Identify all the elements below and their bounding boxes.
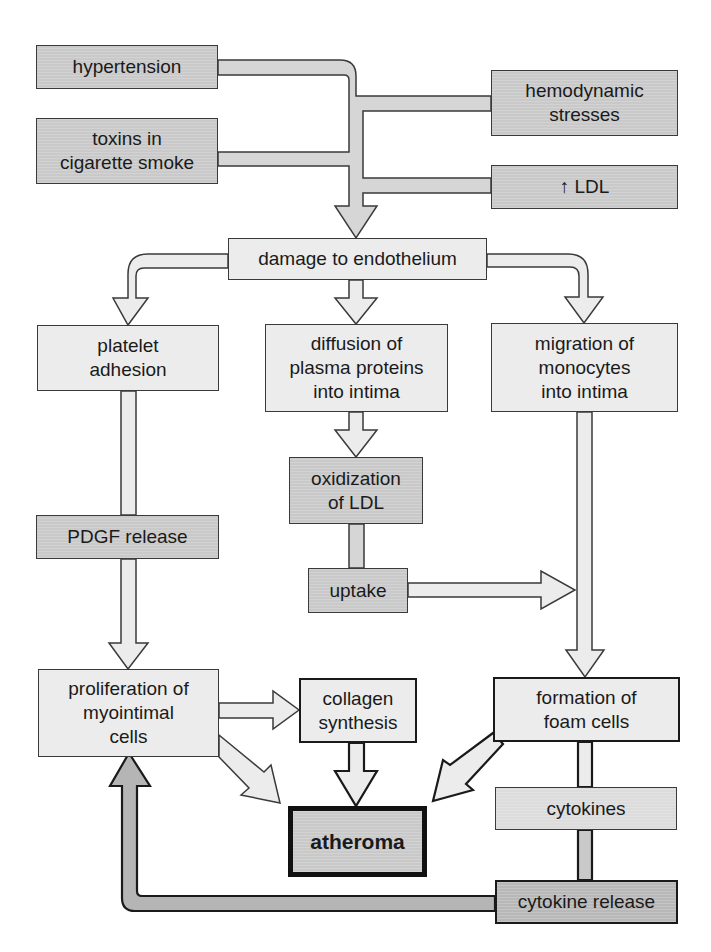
arrow-platelet-to-pdgf (121, 391, 136, 515)
arrow-damage-to-platelet (113, 254, 228, 325)
arrow-proliferation-to-collagen (219, 691, 299, 729)
arrow-cytokines-to-release (578, 830, 592, 880)
node-cytokine-release: cytokine release (495, 880, 678, 924)
arrow-foam-to-cytokines (578, 742, 592, 787)
arrow-proliferation-to-atheroma (219, 735, 280, 803)
node-elevated-ldl: ↑ LDL (491, 165, 678, 209)
node-hemodynamic-stresses: hemodynamic stresses (491, 70, 678, 136)
arrow-pdgf-to-proliferation (109, 559, 148, 669)
node-pdgf-release: PDGF release (36, 515, 219, 559)
node-platelet-adhesion: platelet adhesion (37, 325, 219, 391)
arrow-collagen-to-atheroma (335, 743, 377, 806)
node-cytokines: cytokines (495, 787, 677, 830)
arrow-migration-to-foam (566, 412, 604, 677)
node-ldl-oxidization: oxidization of LDL (289, 457, 423, 524)
atheroma-pathogenesis-diagram: hypertension toxins in cigarette smoke h… (0, 0, 711, 952)
node-monocyte-migration: migration of monocytes into intima (491, 323, 678, 412)
arrow-uptake-to-migration-path (408, 571, 575, 609)
arrow-risk-factors-to-damage (218, 60, 491, 238)
node-collagen-synthesis: collagen synthesis (299, 678, 417, 743)
arrow-damage-to-diffusion (335, 280, 377, 324)
node-foam-cell-formation: formation of foam cells (493, 677, 680, 742)
node-cigarette-toxins: toxins in cigarette smoke (36, 118, 218, 184)
node-plasma-protein-diffusion: diffusion of plasma proteins into intima (265, 324, 448, 412)
arrow-diffusion-to-oxidization (335, 412, 377, 457)
node-hypertension: hypertension (36, 45, 218, 89)
arrow-foam-to-atheroma (433, 733, 503, 801)
arrow-damage-to-migration (487, 254, 603, 323)
node-atheroma: atheroma (288, 806, 427, 877)
node-uptake: uptake (308, 568, 408, 613)
node-damage-to-endothelium: damage to endothelium (228, 238, 487, 280)
node-myointimal-proliferation: proliferation of myointimal cells (38, 669, 219, 757)
arrow-oxidization-to-uptake (349, 524, 364, 568)
